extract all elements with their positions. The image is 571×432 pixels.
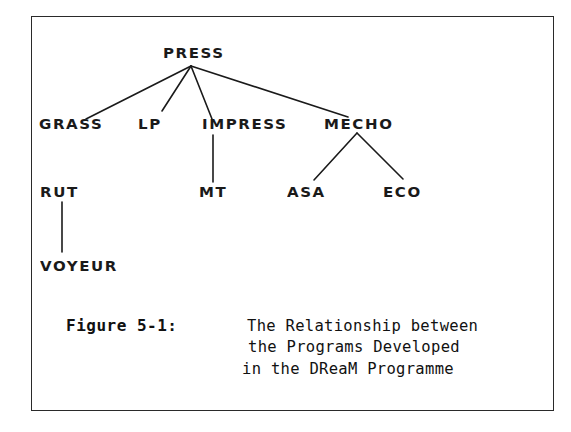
- edge-press-grass: [86, 66, 191, 119]
- node-lp: LP: [138, 116, 162, 131]
- edge-press-impress: [191, 66, 212, 119]
- node-rut: RUT: [40, 184, 79, 199]
- node-asa: ASA: [287, 184, 326, 199]
- caption-line-2: the Programs Developed: [248, 338, 460, 356]
- edge-press-mecho: [191, 66, 348, 117]
- edge-mecho-asa: [314, 133, 357, 180]
- node-voyeur: VOYEUR: [40, 258, 118, 273]
- edge-mecho-eco: [357, 133, 403, 179]
- node-mt: MT: [199, 184, 227, 199]
- node-grass: GRASS: [39, 116, 103, 131]
- node-press: PRESS: [163, 45, 225, 60]
- figure-label: Figure 5-1:: [66, 317, 177, 335]
- node-mecho: MECHO: [324, 116, 394, 131]
- node-impress: IMPRESS: [202, 116, 287, 131]
- caption-line-1: The Relationship between: [247, 317, 478, 335]
- node-eco: ECO: [383, 184, 422, 199]
- caption-line-3: in the DReaM Programme: [242, 360, 454, 378]
